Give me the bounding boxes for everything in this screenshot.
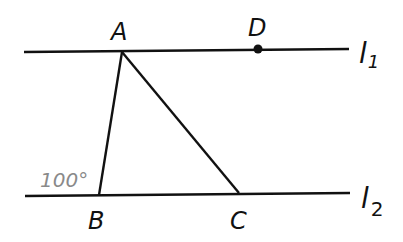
- line-l2: [25, 193, 350, 196]
- line-l1: [24, 49, 349, 52]
- label-l2-letter: l: [361, 182, 369, 215]
- label-c: C: [230, 207, 247, 235]
- angle-label-b: 100°: [40, 168, 88, 192]
- label-d: D: [248, 14, 266, 42]
- label-b: B: [88, 207, 104, 235]
- label-l1-subscript: 1: [368, 51, 379, 72]
- segment-ac: [122, 52, 239, 193]
- point-d-marker: [254, 45, 263, 54]
- label-l1-letter: l: [359, 37, 367, 70]
- label-l2: l2: [361, 182, 384, 221]
- label-a: A: [109, 18, 127, 46]
- label-l2-subscript: 2: [371, 197, 384, 221]
- segment-ab: [99, 52, 122, 195]
- geometry-diagram: A D B C l1 l2 100°: [0, 0, 403, 242]
- label-l1: l1: [359, 37, 379, 72]
